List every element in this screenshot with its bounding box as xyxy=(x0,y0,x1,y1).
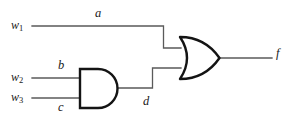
wire-label-a: a xyxy=(95,7,101,20)
wire-d-and-to-or-input xyxy=(118,68,181,88)
input-label-w1: w1 xyxy=(11,19,23,33)
wire-label-c: c xyxy=(58,101,64,114)
or-gate xyxy=(180,37,220,79)
wire-a-w1-to-or-input xyxy=(32,26,181,48)
logic-circuit-diagram: w1 w2 w3 a b c d f xyxy=(0,0,301,127)
input-label-w3: w3 xyxy=(11,91,23,105)
wire-label-d: d xyxy=(143,95,149,108)
wire-label-b: b xyxy=(58,59,64,72)
input-label-w2: w2 xyxy=(11,71,23,85)
output-label-f: f xyxy=(276,47,279,60)
and-gate xyxy=(80,69,118,108)
circuit-schematic-svg xyxy=(0,0,301,127)
